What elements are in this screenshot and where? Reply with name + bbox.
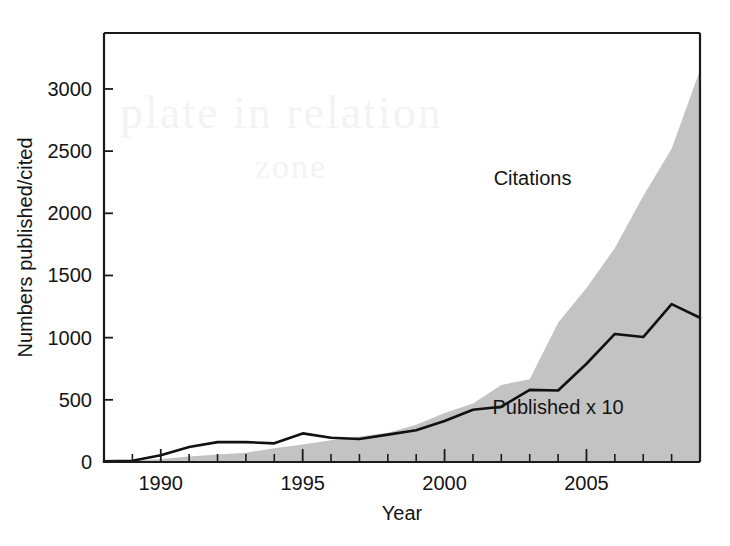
y-axis-tick-label: 1000: [48, 327, 93, 349]
scan-bleed-text: plate in relation: [120, 87, 443, 138]
chart-figure: plate in relationzone 050010001500200025…: [0, 0, 730, 546]
series-annotation-published: Published x 10: [492, 396, 623, 418]
x-axis-tick-label: 1990: [139, 472, 184, 494]
scan-bleed-text: zone: [255, 148, 327, 185]
y-axis-tick-label: 2500: [48, 140, 93, 162]
chart-svg: plate in relationzone 050010001500200025…: [0, 0, 730, 546]
y-axis-tick-label: 500: [59, 389, 92, 411]
y-axis-tick-label: 1500: [48, 264, 93, 286]
y-axis-tick-label: 2000: [48, 202, 93, 224]
series-annotation-citations: Citations: [494, 167, 572, 189]
y-axis-title: Numbers published/cited: [14, 137, 36, 357]
x-axis-tick-label: 1995: [280, 472, 325, 494]
scan-artifact-layer: plate in relationzone: [120, 87, 443, 185]
x-axis-tick-label: 2000: [422, 472, 467, 494]
x-axis-tick-label: 2005: [564, 472, 609, 494]
y-axis-tick-label: 0: [81, 451, 92, 473]
y-axis-tick-label: 3000: [48, 78, 93, 100]
x-axis-title: Year: [382, 502, 423, 524]
